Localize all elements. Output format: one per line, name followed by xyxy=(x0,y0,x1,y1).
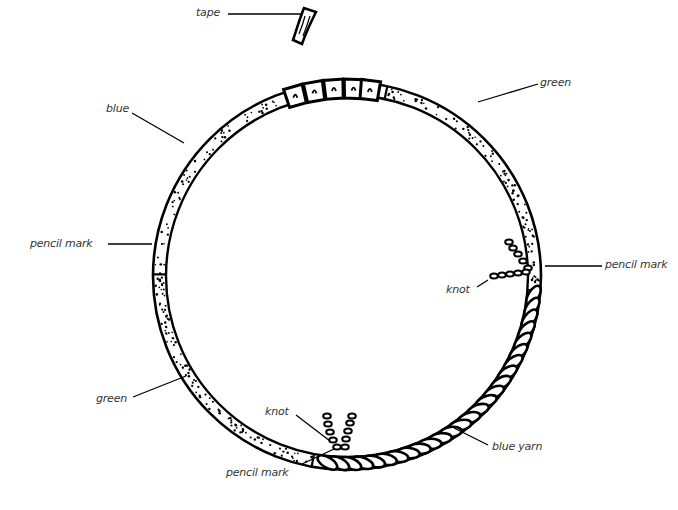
label-pencil-mark-left: pencil mark xyxy=(30,237,93,250)
label-pencil-mark-bottom: pencil mark xyxy=(226,466,289,479)
hoop-diagram xyxy=(0,0,678,510)
label-tape: tape xyxy=(196,6,220,19)
blue-yarn-wrap xyxy=(315,239,543,473)
label-green-bottom: green xyxy=(96,392,127,405)
label-green-top: green xyxy=(540,76,571,89)
label-blue: blue xyxy=(106,102,129,115)
label-knot-bottom: knot xyxy=(265,405,289,418)
label-pencil-mark-right: pencil mark xyxy=(605,258,668,271)
label-knot-right: knot xyxy=(446,283,470,296)
tape-wrap xyxy=(284,8,381,107)
label-blue-yarn: blue yarn xyxy=(492,440,542,453)
